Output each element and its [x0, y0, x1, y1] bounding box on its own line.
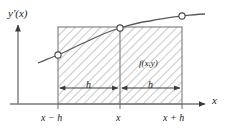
curve-marker-mid — [117, 25, 123, 31]
tick-label-x-minus-h: x − h — [41, 113, 62, 123]
dimension-label-right-h: h — [148, 80, 153, 90]
derivative-integration-diagram: y′(x) x x − h x x + h h h f(x,y) — [0, 0, 227, 133]
tick-label-x: x — [116, 113, 120, 123]
diagram-canvas — [0, 0, 227, 133]
dimension-label-left-h: h — [86, 80, 91, 90]
x-axis-label: x — [212, 95, 217, 106]
curve-marker-right — [179, 13, 185, 19]
region-function-label: f(x,y) — [139, 59, 158, 68]
curve-marker-left — [55, 52, 61, 58]
tick-label-x-plus-h: x + h — [163, 113, 184, 123]
y-axis-label: y′(x) — [8, 8, 28, 19]
